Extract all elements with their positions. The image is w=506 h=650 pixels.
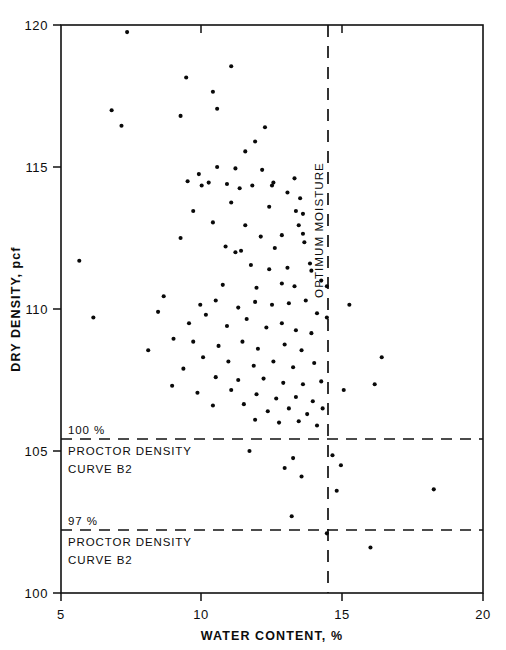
data-point [242, 402, 246, 406]
y-tick-label-115: 115 [25, 160, 48, 175]
data-point [229, 200, 233, 204]
data-point [301, 232, 305, 236]
data-point [305, 412, 309, 416]
data-point [287, 301, 291, 305]
data-point [342, 388, 346, 392]
proctor-100-percent-label: 100 % [68, 424, 105, 436]
data-point [198, 303, 202, 307]
data-point [125, 30, 129, 34]
data-point [339, 463, 343, 467]
data-point [256, 347, 260, 351]
data-point [294, 209, 298, 213]
data-point [162, 294, 166, 298]
data-point [201, 355, 205, 359]
data-point [274, 396, 278, 400]
data-point [309, 269, 313, 273]
data-point [215, 107, 219, 111]
data-point [181, 367, 185, 371]
data-point [273, 246, 277, 250]
data-point [211, 404, 215, 408]
data-point [380, 355, 384, 359]
data-point [260, 168, 264, 172]
data-point [319, 379, 323, 383]
data-point [285, 191, 289, 195]
data-point [297, 223, 301, 227]
data-point [253, 300, 257, 304]
data-point [224, 244, 228, 248]
data-point [266, 409, 270, 413]
y-tick-label-110: 110 [25, 302, 48, 317]
data-point [179, 114, 183, 118]
data-point [217, 344, 221, 348]
data-point [368, 546, 372, 550]
x-axis-ticks [61, 25, 483, 601]
y-tick-label-100: 100 [25, 586, 49, 601]
data-point [264, 325, 268, 329]
data-point [294, 395, 298, 399]
data-point [211, 90, 215, 94]
data-point [325, 315, 329, 319]
x-axis-title: WATER CONTENT, % [201, 629, 343, 643]
data-point [215, 165, 219, 169]
data-point [225, 324, 229, 328]
plot-frame [61, 25, 483, 593]
x-tick-label-5: 5 [57, 607, 65, 622]
data-point [292, 284, 296, 288]
data-point [171, 337, 175, 341]
data-point [119, 124, 123, 128]
data-point [243, 149, 247, 153]
data-point [200, 183, 204, 187]
data-point [156, 310, 160, 314]
x-tick-label-10: 10 [193, 607, 209, 622]
data-point [285, 266, 289, 270]
data-point [250, 183, 254, 187]
data-point [299, 475, 303, 479]
scatter-plot-figure: 120 115 110 105 100 5 10 15 20 WATER CON… [0, 0, 506, 650]
data-point [281, 381, 285, 385]
data-point [432, 487, 436, 491]
data-point [249, 263, 253, 267]
data-point [236, 378, 240, 382]
data-point [239, 249, 243, 253]
data-point [301, 212, 305, 216]
data-point [221, 283, 225, 287]
data-point [325, 284, 329, 288]
data-point [335, 489, 339, 493]
data-point [184, 75, 188, 79]
x-tick-label-15: 15 [334, 607, 350, 622]
y-tick-label-120: 120 [25, 18, 49, 33]
proctor-100-density-label-line1: PROCTOR DENSITY [68, 445, 192, 457]
data-point [311, 399, 315, 403]
data-point [283, 466, 287, 470]
data-point [287, 406, 291, 410]
data-point [214, 375, 218, 379]
data-point [292, 176, 296, 180]
data-point [280, 233, 284, 237]
proctor-100-density-label-line2: CURVE B2 [68, 463, 133, 475]
x-tick-labels: 5 10 15 20 [57, 607, 491, 622]
proctor-97-density-label-line1: PROCTOR DENSITY [68, 536, 192, 548]
data-point [277, 421, 281, 425]
data-point [297, 419, 301, 423]
data-point [233, 166, 237, 170]
data-point [294, 328, 298, 332]
data-point [263, 125, 267, 129]
data-point [243, 223, 247, 227]
data-point [91, 315, 95, 319]
data-point [245, 317, 249, 321]
data-point [319, 279, 323, 283]
data-point [77, 259, 81, 263]
data-point [233, 250, 237, 254]
data-point [291, 365, 295, 369]
data-point [179, 236, 183, 240]
data-point [247, 449, 251, 453]
data-point [187, 321, 191, 325]
data-point [298, 196, 302, 200]
data-point [262, 377, 266, 381]
data-point [315, 423, 319, 427]
data-point [290, 514, 294, 518]
data-point [195, 391, 199, 395]
data-point [299, 348, 303, 352]
data-point [330, 453, 334, 457]
data-point [240, 340, 244, 344]
